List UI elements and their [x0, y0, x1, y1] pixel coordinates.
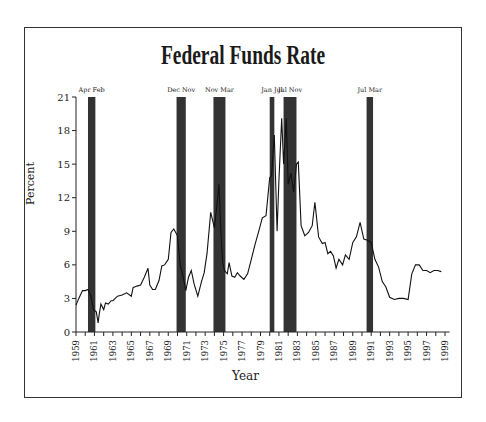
- x-tick-label: 1963: [108, 340, 118, 362]
- recession-label: Apr Feb: [78, 86, 105, 94]
- x-tick-label: 1969: [163, 340, 173, 362]
- x-tick-label: 1965: [126, 340, 136, 362]
- recession-band: [177, 97, 186, 332]
- recession-band: [213, 97, 225, 332]
- y-tick-label: 15: [57, 159, 70, 170]
- x-tick-label: 1989: [348, 340, 358, 362]
- y-tick-label: 12: [57, 192, 70, 203]
- x-tick-label: 1967: [145, 340, 155, 362]
- data-series: [76, 118, 441, 323]
- plot-area: Apr FebDec NovNov MarJan JulJul NovJul M…: [0, 0, 486, 422]
- x-tick-label: 1975: [219, 340, 229, 362]
- x-tick-label: 1977: [237, 340, 247, 362]
- y-tick-label: 18: [57, 125, 70, 136]
- x-tick-label: 1991: [366, 340, 376, 362]
- y-tick-label: 9: [64, 226, 70, 237]
- y-tick-label: 21: [57, 92, 70, 103]
- x-tick-label: 1985: [311, 340, 321, 362]
- x-tick-label: 1981: [274, 340, 284, 362]
- axes: 0369121518211959196119631965196719691971…: [57, 92, 450, 362]
- x-tick-label: 1979: [256, 340, 266, 362]
- recession-bands: Apr FebDec NovNov MarJan JulJul NovJul M…: [78, 86, 383, 332]
- recession-band: [270, 97, 275, 332]
- y-tick-label: 6: [64, 259, 70, 270]
- recession-band: [367, 97, 373, 332]
- x-tick-label: 1971: [182, 340, 192, 362]
- x-tick-label: 1959: [71, 340, 81, 362]
- rate-line: [76, 118, 441, 323]
- x-tick-label: 1973: [200, 340, 210, 362]
- recession-band: [88, 97, 95, 332]
- x-tick-label: 1961: [89, 340, 99, 362]
- recession-label: Jul Nov: [277, 86, 303, 94]
- recession-label: Nov Mar: [205, 86, 235, 94]
- x-tick-label: 1999: [440, 340, 450, 362]
- x-tick-label: 1987: [329, 340, 339, 362]
- x-tick-label: 1997: [422, 340, 432, 362]
- x-tick-label: 1983: [292, 340, 302, 362]
- y-tick-label: 0: [64, 327, 70, 338]
- x-tick-label: 1993: [385, 340, 395, 362]
- recession-label: Dec Nov: [167, 86, 195, 94]
- recession-label: Jul Mar: [357, 86, 383, 94]
- y-tick-label: 3: [64, 293, 70, 304]
- x-tick-label: 1995: [403, 340, 413, 362]
